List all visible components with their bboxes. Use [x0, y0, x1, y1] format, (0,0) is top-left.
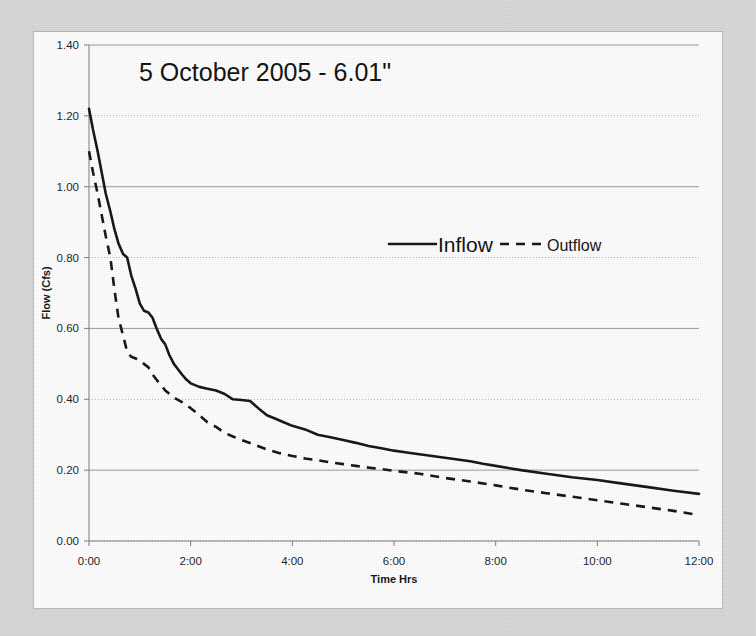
chart-title: 5 October 2005 - 6.01" [139, 58, 391, 86]
x-tick-label: 2:00 [179, 555, 201, 567]
x-axis-ticks [89, 541, 699, 546]
gridlines-group [89, 45, 699, 541]
x-tick-label: 12:00 [685, 555, 714, 567]
x-tick-label: 0:00 [78, 555, 100, 567]
y-tick-label: 0.20 [57, 464, 79, 476]
x-tick-label: 6:00 [383, 555, 405, 567]
series-line-outflow [89, 151, 699, 515]
y-tick-label: 1.00 [57, 181, 79, 193]
y-tick-label: 0.80 [57, 252, 79, 264]
chart-card: 0.000.200.400.600.801.001.201.40 0:002:0… [33, 31, 723, 609]
y-tick-label: 0.00 [57, 535, 79, 547]
x-tick-label: 10:00 [583, 555, 612, 567]
y-tick-label: 1.40 [57, 39, 79, 51]
y-tick-label: 1.20 [57, 110, 79, 122]
y-tick-label: 0.40 [57, 393, 79, 405]
y-tick-label: 0.60 [57, 322, 79, 334]
x-tick-label: 4:00 [281, 555, 303, 567]
x-axis-title: Time Hrs [371, 573, 418, 585]
y-axis-title: Flow (Cfs) [40, 266, 52, 319]
x-axis-tick-labels: 0:002:004:006:008:0010:0012:00 [78, 555, 714, 567]
legend-label-outflow: Outflow [547, 237, 602, 254]
hydrograph-chart: 0.000.200.400.600.801.001.201.40 0:002:0… [34, 32, 722, 608]
y-axis-ticks [84, 45, 89, 541]
chart-legend: Inflow Outflow [389, 233, 602, 256]
legend-label-inflow: Inflow [438, 233, 494, 256]
series-line-inflow [89, 109, 699, 494]
y-axis-tick-labels: 0.000.200.400.600.801.001.201.40 [57, 39, 79, 547]
x-tick-label: 8:00 [484, 555, 506, 567]
